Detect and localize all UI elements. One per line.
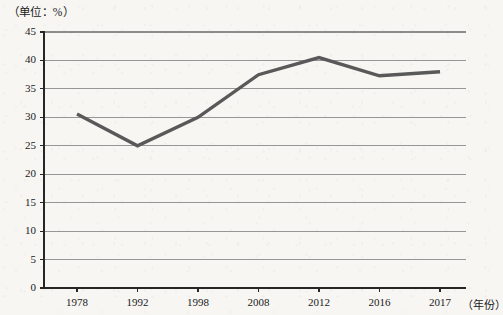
series-line xyxy=(77,58,440,146)
y-tick-label-45: 45 xyxy=(10,25,36,37)
x-tick-label-1992: 1992 xyxy=(127,296,149,308)
x-axis xyxy=(44,288,466,292)
x-axis-title: （年份） xyxy=(462,296,503,312)
y-tick-label-35: 35 xyxy=(10,82,36,94)
y-tick-label-0: 0 xyxy=(10,281,36,293)
y-tick-label-30: 30 xyxy=(10,110,36,122)
gridlines xyxy=(44,32,466,260)
x-tick-label-2017: 2017 xyxy=(429,296,451,308)
x-tick-label-2016: 2016 xyxy=(369,296,391,308)
y-tick-label-40: 40 xyxy=(10,53,36,65)
y-tick-label-10: 10 xyxy=(10,224,36,236)
chart-unit-label: （单位：%） xyxy=(8,3,74,19)
x-tick-label-2012: 2012 xyxy=(308,296,330,308)
x-tick-label-2008: 2008 xyxy=(248,296,270,308)
y-tick-label-25: 25 xyxy=(10,139,36,151)
y-tick-label-5: 5 xyxy=(10,253,36,265)
y-tick-label-15: 15 xyxy=(10,196,36,208)
x-tick-label-1998: 1998 xyxy=(187,296,209,308)
data-series-line xyxy=(77,58,440,146)
x-tick-label-1978: 1978 xyxy=(66,296,88,308)
y-axis xyxy=(40,31,44,288)
y-tick-label-20: 20 xyxy=(10,167,36,179)
